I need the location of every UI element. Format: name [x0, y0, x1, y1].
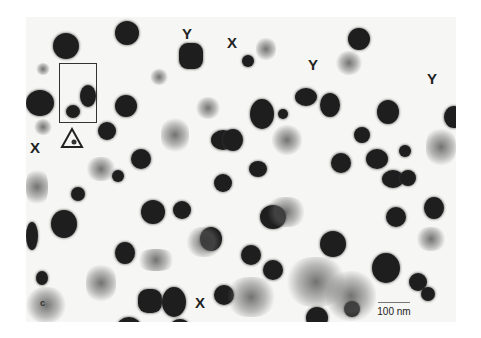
particle: [98, 122, 116, 140]
label-x-2: X: [30, 140, 40, 155]
particle: [400, 170, 416, 186]
debris: [161, 117, 189, 153]
particle: [377, 100, 399, 124]
particle: [223, 129, 243, 151]
debris: [226, 277, 276, 317]
particle: [131, 149, 151, 169]
particle: [242, 55, 254, 67]
particle: [53, 33, 79, 59]
particle: [138, 289, 162, 313]
debris: [26, 167, 48, 207]
panel-label: c: [40, 298, 45, 308]
debris: [150, 69, 168, 85]
debris: [416, 227, 446, 251]
particle: [241, 245, 261, 265]
scale-bar: 100 nm: [372, 302, 416, 317]
debris: [136, 249, 176, 271]
label-y-1: Y: [182, 26, 192, 41]
debris: [26, 287, 66, 322]
particle: [214, 174, 232, 192]
particle: [399, 145, 411, 157]
particle: [424, 197, 444, 219]
particle: [421, 287, 435, 301]
debris: [86, 157, 116, 181]
particle: [51, 210, 77, 238]
scale-bar-label: 100 nm: [372, 306, 416, 317]
label-x-1: X: [227, 35, 237, 50]
debris: [256, 37, 276, 61]
debris: [196, 97, 220, 119]
particle: [36, 271, 48, 285]
label-y-3: Y: [427, 71, 437, 86]
particle: [162, 287, 186, 317]
particle: [320, 231, 346, 257]
debris: [266, 197, 306, 227]
particle: [115, 95, 137, 117]
particle: [386, 207, 406, 227]
debris: [326, 271, 376, 321]
debris: [36, 63, 50, 75]
roi-rectangle: [59, 63, 97, 123]
particle: [295, 88, 317, 106]
particle: [366, 149, 388, 169]
debris: [34, 119, 52, 135]
particle: [171, 319, 189, 322]
particle: [26, 222, 38, 250]
particle: [263, 260, 283, 280]
debris: [426, 127, 456, 167]
particle: [444, 106, 456, 128]
tem-micrograph: [26, 17, 456, 322]
particle: [306, 307, 328, 322]
particle: [249, 161, 267, 177]
debris: [336, 51, 362, 75]
particle: [372, 253, 400, 283]
debris: [186, 227, 222, 257]
particle: [141, 200, 165, 224]
particle: [278, 109, 288, 119]
particle: [354, 127, 370, 143]
particle: [320, 93, 340, 117]
particle: [71, 187, 85, 201]
debris: [86, 263, 116, 303]
particle: [331, 153, 351, 173]
particle: [348, 28, 370, 50]
particle: [115, 242, 135, 264]
particle: [173, 201, 191, 219]
particle: [117, 317, 141, 322]
label-x-3: X: [195, 295, 205, 310]
particle: [250, 99, 274, 129]
label-y-2: Y: [308, 57, 318, 72]
particle: [26, 90, 54, 116]
debris: [272, 125, 302, 155]
particle: [179, 43, 203, 69]
scale-bar-line: [378, 302, 410, 303]
triangle-marker-icon: [60, 127, 84, 149]
particle: [115, 21, 139, 45]
